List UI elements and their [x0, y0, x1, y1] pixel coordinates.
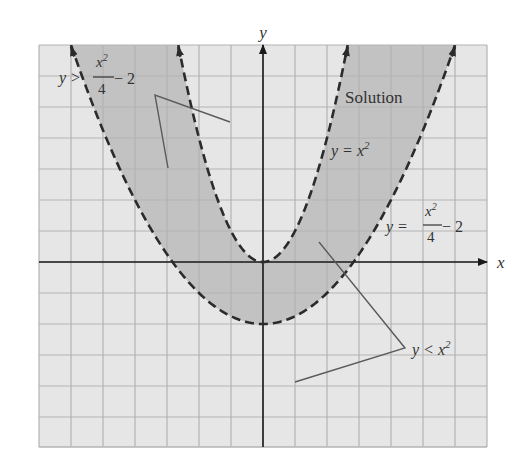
x-axis-label: x — [496, 253, 505, 272]
inequality-label-lower: y < x2 — [410, 338, 451, 359]
y-axis-label: y — [257, 23, 267, 42]
label-tail: − 2 — [442, 218, 463, 235]
label-lhs: y = — [384, 218, 408, 236]
solution-label: Solution — [345, 88, 403, 107]
label-base: x — [356, 142, 364, 159]
label-exp: 2 — [445, 338, 451, 350]
label-den: 4 — [427, 229, 435, 245]
label-lhs: y < — [410, 341, 438, 359]
inequality-graph: y x Solution y = x2 y = x2 4 − 2 y > x2 … — [0, 0, 529, 469]
svg-text:y < x2: y < x2 — [410, 338, 451, 359]
label-exp: 2 — [364, 139, 370, 151]
label-tail: − 2 — [114, 70, 135, 87]
label-num-exp: 2 — [103, 52, 108, 63]
curve-label-y-equals-x-squared: y = x2 — [329, 139, 370, 160]
label-lhs: y = — [329, 142, 357, 160]
label-lhs: y > — [57, 69, 81, 87]
label-num-exp: 2 — [432, 201, 437, 212]
label-base: x — [437, 341, 445, 358]
label-den: 4 — [98, 81, 106, 97]
svg-text:y = x2: y = x2 — [329, 139, 370, 160]
